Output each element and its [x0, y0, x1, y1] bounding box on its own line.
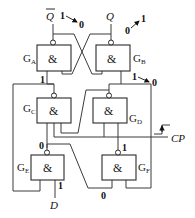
svg-text:E: E	[25, 167, 29, 175]
svg-text:F: F	[146, 167, 150, 175]
svg-text:G: G	[17, 161, 25, 173]
gate-gd: & G D	[93, 93, 142, 126]
svg-text:Q: Q	[46, 10, 54, 22]
q-from-value: 0	[125, 25, 130, 36]
gb-input-from-value: 1	[132, 71, 137, 82]
svg-text:&: &	[49, 104, 59, 118]
ga-input-value: 1	[40, 74, 45, 85]
svg-text:B: B	[141, 58, 146, 66]
svg-text:&: &	[113, 161, 123, 175]
svg-text:&: &	[48, 52, 58, 66]
gate-gc: & G C	[23, 93, 71, 123]
qbar-transition-arrow	[66, 16, 77, 22]
inverter-bubble-icon	[116, 150, 121, 155]
svg-text:C: C	[31, 108, 36, 116]
qbar-to-value: 0	[79, 19, 84, 30]
inverter-bubble-icon	[51, 40, 56, 45]
gate-gf: & G F	[102, 150, 150, 180]
qbar-from-value: 1	[60, 10, 65, 21]
svg-text:D: D	[137, 118, 142, 126]
svg-text:G: G	[129, 112, 137, 124]
qbar-output-label: Q	[46, 9, 55, 22]
q-transition-arrow	[131, 21, 139, 28]
svg-text:G: G	[23, 102, 31, 114]
svg-text:&: &	[107, 52, 117, 66]
data-input-label: D	[49, 199, 58, 211]
inverter-bubble-icon	[45, 150, 50, 155]
circuit-diagram: Q 1 0 Q 0 1	[0, 0, 195, 218]
gate-ga: & G A	[23, 40, 71, 71]
ge-output-value: 0	[39, 140, 44, 151]
gate-ge: & G E	[17, 150, 64, 180]
circuit-svg: Q 1 0 Q 0 1	[0, 0, 195, 218]
svg-text:G: G	[138, 161, 146, 173]
inverter-bubble-icon	[109, 40, 114, 45]
q-output-label: Q	[106, 10, 114, 22]
gf-output-value: 1	[122, 142, 127, 153]
gf-input-value: 0	[101, 190, 106, 201]
gb-transition-arrow	[138, 77, 149, 82]
svg-text:&: &	[43, 161, 53, 175]
gate-gb: & G B	[96, 40, 146, 71]
clock-input-label: CP	[171, 132, 185, 144]
svg-text:G: G	[133, 52, 141, 64]
svg-text:G: G	[23, 52, 31, 64]
q-to-value: 1	[141, 13, 146, 24]
d-value: 1	[58, 180, 63, 191]
svg-text:A: A	[31, 58, 36, 66]
gb-input-to-value: 0	[152, 77, 157, 88]
inverter-bubble-icon	[52, 93, 57, 98]
svg-text:&: &	[104, 104, 114, 118]
inverter-bubble-icon	[107, 93, 112, 98]
